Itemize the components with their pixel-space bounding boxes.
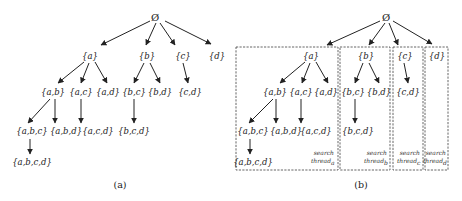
thread-label-line2: thread	[397, 157, 417, 164]
thread-label-a: search thread a	[311, 149, 335, 166]
edge-a-ad	[95, 62, 107, 83]
edge-root-d	[393, 21, 432, 44]
node-bcd: {b,c,d}	[342, 126, 374, 136]
node-c: {c}	[175, 51, 191, 61]
node-root: Ø	[382, 12, 390, 23]
node-bd: {b,d}	[148, 87, 172, 97]
thread-label-line1: search	[426, 149, 446, 156]
node-abcd: {a,b,c,d}	[233, 157, 273, 167]
node-d: {d}	[429, 51, 445, 61]
node-acd: {a,c,d}	[82, 126, 114, 136]
node-ad: {a,d}	[314, 87, 338, 97]
node-d: {d}	[209, 51, 225, 61]
node-abcd: {a,b,c,d}	[12, 157, 52, 167]
edge-c-cd	[183, 63, 188, 83]
edge-b-bc	[134, 63, 144, 83]
edge-root-c	[389, 23, 398, 45]
node-cd: {c,d}	[178, 87, 202, 97]
node-bcd: {b,c,d}	[118, 126, 150, 136]
node-c: {c}	[397, 51, 413, 61]
set-enumeration-tree-figure: Ø {a} {b} {c} {d} {a,b} {a,c} {a,d} {b,c…	[0, 0, 462, 201]
edge-ab-abc	[28, 99, 50, 123]
edge-root-b	[369, 23, 385, 45]
thread-label-d: search thread d	[423, 149, 447, 166]
edge-a-ac	[302, 63, 310, 83]
node-bc: {b,c}	[122, 87, 146, 97]
thread-label-sub: d	[443, 159, 447, 166]
node-abc: {a,b,c}	[16, 126, 48, 136]
node-bd: {b,d}	[367, 87, 391, 97]
node-abc: {a,b,c}	[237, 126, 269, 136]
panel-b: Ø {a} {b} {c} {d} {a,b} {a,c} {a,d} {b,c…	[233, 12, 448, 190]
edge-root-a	[101, 21, 150, 45]
thread-label-line1: search	[314, 149, 334, 156]
node-b: {b}	[139, 51, 155, 61]
edge-b-bd	[369, 63, 379, 83]
thread-label-sub: c	[417, 159, 421, 166]
edge-b-bc	[355, 63, 363, 83]
node-ad: {a,d}	[96, 87, 120, 97]
node-ac: {a,c}	[289, 87, 312, 97]
edge-root-b	[146, 23, 156, 45]
thread-label-line2: thread	[364, 157, 384, 164]
node-abd: {a,b,d}	[270, 126, 302, 136]
node-cd: {c,d}	[396, 87, 420, 97]
node-root: Ø	[151, 12, 159, 23]
node-a: {a}	[82, 51, 98, 61]
thread-label-line2: thread	[311, 157, 331, 164]
edge-ab-abc	[249, 99, 273, 123]
node-ac: {a,c}	[69, 87, 92, 97]
caption-b: (b)	[354, 179, 368, 190]
thread-label-line1: search	[400, 149, 420, 156]
thread-label-line2: thread	[423, 157, 443, 164]
node-ab: {a,b}	[41, 87, 65, 97]
thread-label-sub: b	[384, 159, 388, 166]
panel-a: Ø {a} {b} {c} {d} {a,b} {a,c} {a,d} {b,c…	[12, 12, 225, 190]
edge-b-bd	[150, 63, 160, 83]
edge-a-ab	[58, 62, 84, 83]
node-b: {b}	[358, 51, 374, 61]
thread-label-c: search thread c	[397, 149, 421, 166]
node-acd: {a,c,d}	[300, 126, 332, 136]
node-ab: {a,b}	[263, 87, 287, 97]
thread-label-b: search thread b	[364, 149, 388, 166]
edge-a-ab	[280, 62, 305, 83]
node-a: {a}	[303, 51, 319, 61]
edge-c-cd	[404, 63, 408, 83]
edge-a-ad	[316, 62, 328, 83]
node-bc: {b,c}	[341, 87, 365, 97]
node-abd: {a,b,d}	[50, 126, 82, 136]
caption-a: (a)	[113, 179, 126, 190]
thread-label-sub: a	[331, 159, 335, 166]
thread-label-line1: search	[367, 149, 387, 156]
edge-a-ac	[81, 63, 89, 83]
edge-root-c	[160, 23, 175, 45]
